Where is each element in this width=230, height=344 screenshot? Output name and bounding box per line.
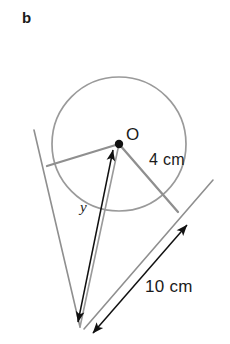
centre-to-external-point-gray-line	[80, 144, 119, 327]
unknown-length-label: y	[80, 200, 87, 215]
centre-point-group	[115, 140, 123, 148]
geometry-figure-panel-b: b O 4 cm 10 cm y	[0, 0, 230, 344]
tangent-line-right	[84, 180, 213, 329]
tangent-measure-label: 10 cm	[145, 278, 193, 295]
segment-centre-to-external-point	[80, 144, 119, 327]
centre-point-dot	[115, 140, 123, 148]
y-dimension-arrow-group	[78, 150, 113, 322]
radius-measure-label: 4 cm	[149, 152, 185, 168]
radius-to-left-tangent-point	[47, 144, 119, 166]
panel-letter-label: b	[22, 10, 31, 25]
tangent-lines-group	[34, 130, 213, 329]
tangent-line-left	[34, 130, 80, 327]
y-double-arrow	[78, 150, 113, 322]
centre-point-label: O	[126, 126, 139, 143]
geometry-diagram-svg	[0, 0, 230, 344]
